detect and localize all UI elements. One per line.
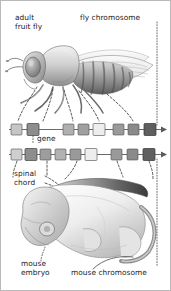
mouse-embryo-callout-line xyxy=(41,247,45,261)
fly-chromosome-genes xyxy=(11,124,156,136)
fruit-fly-illustration xyxy=(5,46,153,113)
fly-eye xyxy=(26,57,41,77)
mouse-embryo-illustration xyxy=(21,178,155,261)
figure-artwork xyxy=(1,1,171,291)
mouse-chromosome xyxy=(9,149,167,161)
fly-chromosome xyxy=(9,124,167,144)
fly-abdomen xyxy=(71,61,133,95)
fly-head xyxy=(23,52,46,89)
fly-antennae xyxy=(5,58,23,72)
figure-root: adult fruit fly fly chromosome gene spin… xyxy=(0,0,171,291)
mouse-chromosome-to-embryo-connectors xyxy=(13,161,153,179)
